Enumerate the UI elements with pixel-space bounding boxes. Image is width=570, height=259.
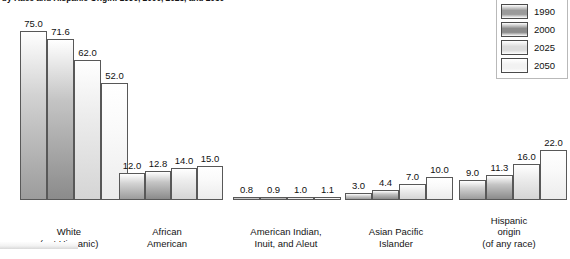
chart-page: by Race and Hispanic Origin: 1990, 2000,… [0,0,570,259]
bar-asian-pacific-islander-2000[interactable]: 4.4 [372,20,399,200]
bar-african-american-2000[interactable]: 12.8 [145,20,171,200]
legend-label: 2050 [534,61,555,71]
bar-rect [459,180,486,200]
category-label-line: Hispanic [452,215,566,227]
bar-group-white-not-hispanic: 75.071.662.052.0 [20,20,128,200]
bar-rect [513,164,540,200]
footer-strip [0,242,78,249]
legend-item-1990[interactable]: 1990 [501,3,563,20]
category-label-line: Inuit, and Aleut [228,238,344,250]
bar-african-american-2025[interactable]: 14.0 [171,20,197,200]
category-label-asian-pacific-islander: Asian PacificIslander [340,226,452,249]
category-label-line: (of any race) [452,238,566,250]
legend-label: 1990 [534,7,555,17]
bar-group-african-american: 12.012.814.015.0 [119,20,223,200]
bar-value-label: 22.0 [544,138,563,148]
bar-american-indian-inuit-aleut-2000[interactable]: 0.9 [260,20,287,200]
legend-swatch-2025 [501,40,528,55]
bar-rect [197,166,223,200]
bar-rect [426,177,453,200]
bar-value-label: 0.9 [267,185,280,195]
category-label-hispanic-origin: Hispanicorigin(of any race) [452,215,566,250]
bar-value-label: 9.0 [466,168,479,178]
bar-rect [287,197,314,200]
bar-value-label: 14.0 [175,156,194,166]
bar-group-asian-pacific-islander: 3.04.47.010.0 [345,20,453,200]
bar-rect [233,197,260,200]
bar-rect [399,184,426,200]
bar-rect [540,150,567,200]
bar-value-label: 12.8 [149,159,168,169]
bar-hispanic-origin-1990[interactable]: 9.0 [459,20,486,200]
category-label-line: Islander [340,238,452,250]
category-label-african-american: AfricanAmerican [114,226,220,249]
plot-area: 75.071.662.052.0White(not Hispanic)12.01… [0,0,570,259]
category-label-line: American Indian, [228,226,344,238]
bar-value-label: 3.0 [352,181,365,191]
legend-label: 2025 [534,43,555,53]
bar-asian-pacific-islander-2050[interactable]: 10.0 [426,20,453,200]
chart-legend: 1990200020252050 [496,0,568,79]
category-label-line: White [14,226,124,238]
bar-rect [260,197,287,200]
bar-american-indian-inuit-aleut-1990[interactable]: 0.8 [233,20,260,200]
legend-label: 2000 [534,25,555,35]
legend-swatch-2050 [501,58,528,73]
bar-american-indian-inuit-aleut-2025[interactable]: 1.0 [287,20,314,200]
bar-african-american-1990[interactable]: 12.0 [119,20,145,200]
bar-rect [486,175,513,200]
legend-item-2025[interactable]: 2025 [501,39,563,56]
bar-value-label: 4.4 [379,178,392,188]
category-label-line: Asian Pacific [340,226,452,238]
bar-white-not-hispanic-1990[interactable]: 75.0 [20,20,47,200]
bar-rect [145,171,171,200]
bar-value-label: 16.0 [517,152,536,162]
bar-value-label: 15.0 [201,154,220,164]
category-label-line: African [114,226,220,238]
bar-group-american-indian-inuit-aleut: 0.80.91.01.1 [233,20,341,200]
bar-value-label: 7.0 [406,172,419,182]
legend-item-2000[interactable]: 2000 [501,21,563,38]
legend-swatch-1990 [501,4,528,19]
bar-rect [119,173,145,200]
bar-value-label: 12.0 [123,161,142,171]
category-label-american-indian-inuit-aleut: American Indian,Inuit, and Aleut [228,226,344,249]
bar-value-label: 10.0 [430,165,449,175]
legend-swatch-2000 [501,22,528,37]
bar-value-label: 1.1 [321,185,334,195]
bar-value-label: 1.0 [294,185,307,195]
bar-asian-pacific-islander-1990[interactable]: 3.0 [345,20,372,200]
bar-rect [20,31,47,200]
bar-rect [345,193,372,200]
bar-asian-pacific-islander-2025[interactable]: 7.0 [399,20,426,200]
bar-white-not-hispanic-2000[interactable]: 71.6 [47,20,74,200]
bar-value-label: 11.3 [491,163,509,173]
bar-rect [47,39,74,200]
bar-rect [314,197,341,200]
bar-value-label: 62.0 [78,48,97,58]
bar-rect [171,168,197,200]
legend-item-2050[interactable]: 2050 [501,57,563,74]
category-label-line: American [114,238,220,250]
bar-african-american-2050[interactable]: 15.0 [197,20,223,200]
bar-value-label: 0.8 [240,185,253,195]
bar-value-label: 75.0 [24,19,43,29]
bar-american-indian-inuit-aleut-2050[interactable]: 1.1 [314,20,341,200]
bar-white-not-hispanic-2025[interactable]: 62.0 [74,20,101,200]
bar-rect [74,60,101,200]
category-label-line: origin [452,226,566,238]
bar-value-label: 71.6 [51,27,70,37]
bar-rect [372,190,399,200]
